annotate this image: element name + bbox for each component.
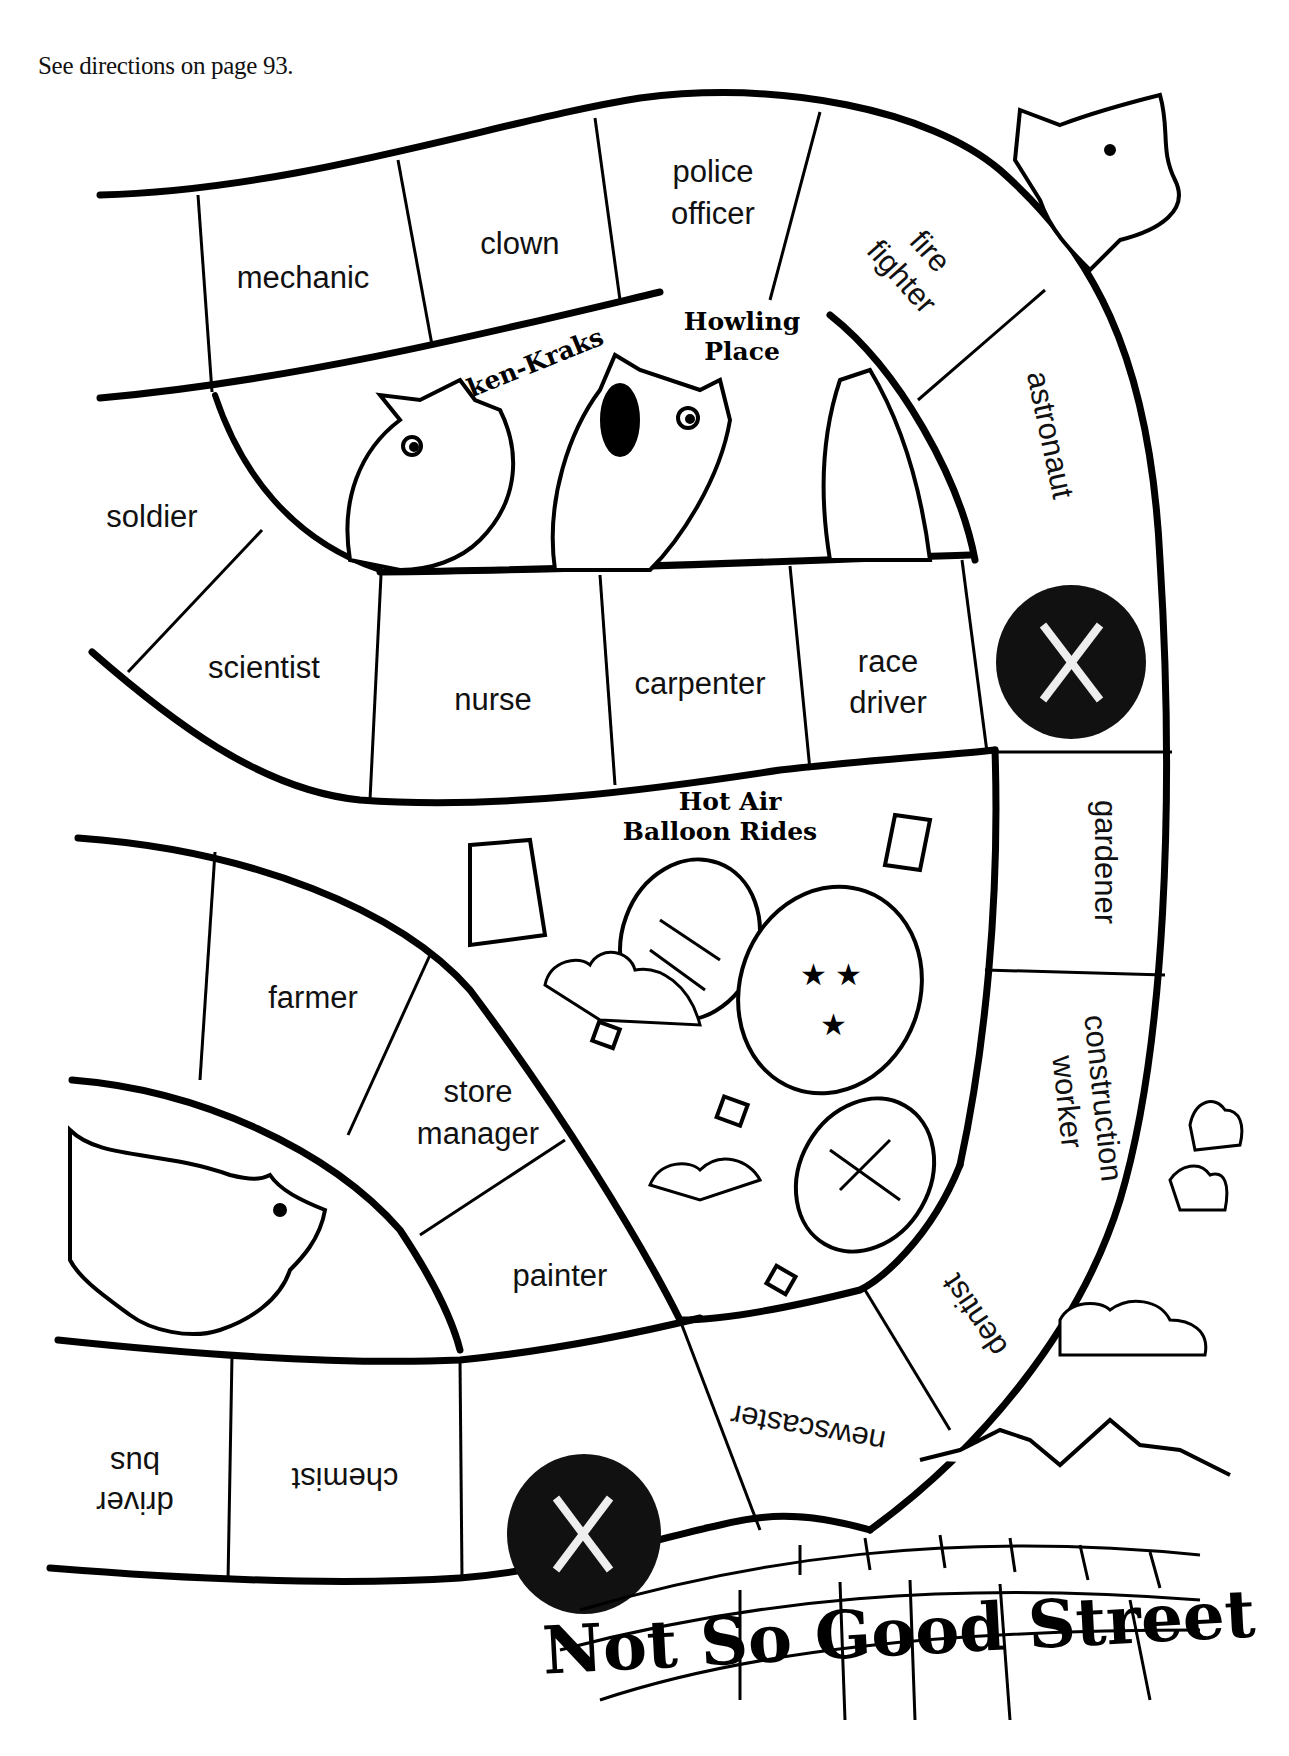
space-astronaut: astronaut xyxy=(1020,368,1081,502)
space-mechanic: mechanic xyxy=(237,260,370,295)
dragon-illustration-top-right xyxy=(1015,95,1179,270)
mountains xyxy=(920,1420,1230,1475)
space-police-officer: police officer xyxy=(671,154,755,231)
space-farmer: farmer xyxy=(268,980,358,1015)
beaver-illustration xyxy=(70,1130,325,1334)
space-label: store xyxy=(444,1074,513,1109)
space-fire-fighter: fire fighter xyxy=(860,208,972,321)
space-race-driver: race driver xyxy=(849,644,927,720)
space-carpenter: carpenter xyxy=(635,666,766,701)
space-label: driver xyxy=(96,1485,174,1520)
space-label: nurse xyxy=(454,682,532,717)
dragon-illustration-left xyxy=(347,380,513,570)
space-label: clown xyxy=(480,226,559,261)
space-label: driver xyxy=(849,685,927,720)
space-chemist: chemist xyxy=(291,1461,398,1496)
space-label: newscaster xyxy=(728,1398,888,1460)
space-label: bus xyxy=(110,1445,160,1480)
balloon-checkered xyxy=(766,1073,961,1294)
game-board: mechanic clown police officer fire fight… xyxy=(0,0,1289,1756)
sign-label: Howling xyxy=(684,307,800,336)
space-lose-turn-1 xyxy=(996,585,1146,739)
space-newscaster: newscaster xyxy=(728,1398,888,1460)
balloon-basket-right xyxy=(885,815,930,870)
space-label: gardener xyxy=(1088,800,1123,924)
space-dentist: dentist xyxy=(934,1267,1014,1363)
svg-text:★ ★: ★ ★ xyxy=(800,958,862,991)
space-soldier: soldier xyxy=(106,499,197,534)
balloon-basket-left xyxy=(470,840,545,945)
space-label: dentist xyxy=(934,1267,1014,1363)
space-label: farmer xyxy=(268,980,358,1015)
space-construction-worker: construction worker xyxy=(1041,1013,1129,1187)
space-label: race xyxy=(858,644,918,679)
balloon-rides-sign: Hot Air Balloon Rides xyxy=(623,787,817,846)
sign-label: Balloon Rides xyxy=(623,817,817,846)
space-clown: clown xyxy=(480,226,559,261)
space-bus-driver: driver bus xyxy=(96,1445,174,1520)
hot-air-balloons: ★ ★ ★ xyxy=(470,815,961,1294)
space-nurse: nurse xyxy=(454,682,532,717)
sign-label: Hot Air xyxy=(679,787,782,816)
space-label: chemist xyxy=(291,1461,398,1496)
space-label: soldier xyxy=(106,499,197,534)
space-label: painter xyxy=(513,1258,608,1293)
space-label: astronaut xyxy=(1020,368,1081,502)
space-label: scientist xyxy=(208,650,320,685)
space-lose-turn-2 xyxy=(507,1454,661,1614)
space-label: officer xyxy=(671,196,755,231)
space-label: manager xyxy=(417,1116,539,1151)
space-label: carpenter xyxy=(635,666,766,701)
sign-label: Place xyxy=(704,337,780,366)
space-scientist: scientist xyxy=(208,650,320,685)
space-label: police xyxy=(673,154,754,189)
svg-text:★: ★ xyxy=(820,1008,847,1041)
space-painter: painter xyxy=(513,1258,608,1293)
space-dividers xyxy=(100,112,1172,1582)
howling-place-sign: Howling Place xyxy=(684,307,800,366)
space-label: mechanic xyxy=(237,260,370,295)
space-gardener: gardener xyxy=(1088,800,1123,924)
dragon-illustration-right xyxy=(823,370,930,560)
space-store-manager: store manager xyxy=(417,1074,539,1151)
path-outlines xyxy=(50,93,1167,1581)
dragon-illustration-middle xyxy=(553,355,730,570)
